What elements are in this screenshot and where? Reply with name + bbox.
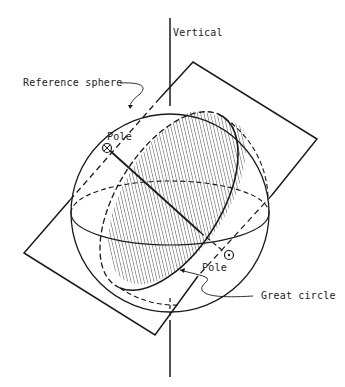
reference-sphere-label: Reference sphere [23,77,123,88]
vertical-label: Vertical [173,27,223,38]
great-circle-diagram: Vertical Reference sphere Pole Pole Grea… [0,0,345,387]
pole-lower-label: Pole [202,262,227,273]
great-circle [80,83,274,308]
diagram-canvas [0,0,345,387]
pole-upper-label: Pole [107,131,132,142]
great-circle-label: Great circle [261,290,336,301]
